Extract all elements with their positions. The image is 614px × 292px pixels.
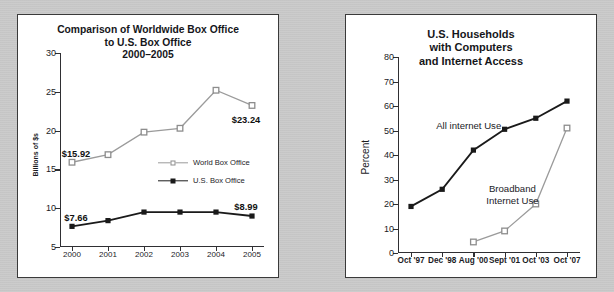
data-point-marker [69,159,75,165]
data-point-marker [533,116,538,121]
data-point-marker [105,218,110,223]
y-tick-label: 0 [389,248,394,258]
x-tick-label: 2004 [207,250,225,259]
chart-title-line-1: Comparison of Worldwide Box Office [18,24,278,37]
y-tick-label: 20 [46,126,56,136]
data-point-marker [141,129,147,135]
data-point-marker [471,148,476,153]
series-lines-box-office [60,53,264,247]
x-tick-label: Dec '98 [428,256,456,265]
series-annotation-line: Broadband [486,183,538,195]
data-point-value-label: $15.92 [62,149,90,159]
legend-label-us-box-office: U.S. Box Office [193,176,245,185]
data-point-marker [177,125,183,131]
figure-background: Comparison of Worldwide Box Office to U.… [0,0,614,292]
data-point-marker [141,209,146,214]
series-annotation-line: All internet Use [436,120,501,132]
x-tick-label: Aug '00 [459,256,488,265]
chart-title-line-2: to U.S. Box Office [18,37,278,50]
y-axis-title-household-internet: Percent [360,140,371,174]
x-tick-label: 2001 [99,250,117,259]
data-point-marker [471,239,477,245]
y-tick-label: 50 [384,126,394,136]
plot-area-household-internet: 01020304050607080 Oct '97Dec '98Aug '00S… [398,57,580,253]
data-point-marker [213,209,218,214]
data-point-marker [440,187,445,192]
x-tick-label: 2000 [63,250,81,259]
x-tick-label: Oct '97 [398,256,425,265]
y-tick-label: 15 [46,164,56,174]
data-point-marker [249,213,254,218]
data-point-value-label: $8.99 [234,202,257,212]
data-point-marker [564,125,570,131]
x-tick-label: 2002 [135,250,153,259]
y-tick-label: 80 [384,52,394,62]
y-tick-label: 5 [51,242,56,252]
plot-area-box-office: 51015202530 200020012002200320042005 $15… [60,53,264,247]
y-tick-label: 30 [384,175,394,185]
x-tick-label: Sept '01 [489,256,520,265]
data-point-marker [249,103,255,109]
filled-square-marker-icon [158,176,188,185]
series-annotation-line: Internet Use [486,194,538,206]
y-tick-label: 40 [384,150,394,160]
chart-title-line-1: U.S. Households [346,28,596,41]
data-point-marker [408,204,413,209]
data-point-marker [564,99,569,104]
series-lines-household-internet [398,57,580,253]
y-tick-label: 70 [384,77,394,87]
x-tick-label: 2005 [243,250,261,259]
legend-item-us-box-office: U.S. Box Office [158,176,250,185]
series-annotation: All internet Use [436,120,501,132]
y-tick-label: 60 [384,101,394,111]
y-tick-label: 30 [46,48,56,58]
data-point-marker [213,87,219,93]
y-tick-label: 10 [384,224,394,234]
legend-item-world-box-office: World Box Office [158,158,250,167]
x-tick-label: Oct '03 [522,256,549,265]
data-point-marker [105,152,111,158]
series-annotation: BroadbandInternet Use [486,183,538,206]
chart-panel-box-office: Comparison of Worldwide Box Office to U.… [17,14,279,278]
y-tick-label: 10 [46,203,56,213]
legend-box-office: World Box Office U.S. Box Office [158,158,250,194]
series-line [72,212,252,226]
data-point-marker [177,209,182,214]
data-point-value-label: $7.66 [64,213,87,223]
y-axis-title-box-office: Billions of $s [32,133,39,177]
data-point-marker [502,127,507,132]
data-point-marker [502,228,508,234]
x-tick-label: 2003 [171,250,189,259]
chart-panel-household-internet: U.S. Households with Computers and Inter… [345,14,597,278]
open-square-marker-icon [158,158,188,167]
data-point-marker [69,224,74,229]
y-tick-label: 25 [46,87,56,97]
series-line [72,90,252,162]
x-tick-label: Oct '07 [554,256,581,265]
y-tick-label: 20 [384,199,394,209]
legend-label-world-box-office: World Box Office [193,158,250,167]
data-point-value-label: $23.24 [232,115,260,125]
